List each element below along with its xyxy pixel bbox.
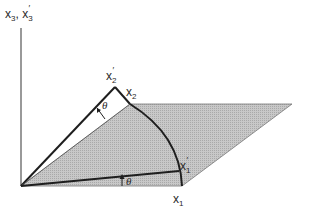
x2-label: x2 — [126, 85, 137, 101]
theta-bottom-label: θ — [126, 175, 132, 187]
x1-label: x1 — [173, 192, 184, 208]
x3-label: x3, x3′ — [5, 3, 33, 23]
x2-prime-label: x2′ — [106, 65, 117, 85]
rotation-diagram: x3, x3′ x2′ x2 x1′ x1 θ θ — [0, 0, 309, 217]
theta-top-label: θ — [102, 99, 108, 111]
